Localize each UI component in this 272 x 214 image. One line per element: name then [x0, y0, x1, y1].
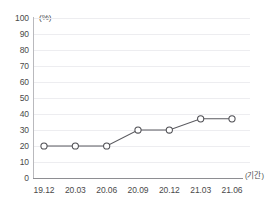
data-series-layer: [0, 0, 272, 214]
data-point-marker: [166, 127, 172, 133]
line-chart: (%) 1009080706050403020100 19.1220.0320.…: [0, 0, 272, 214]
data-point-marker: [198, 116, 204, 122]
series-markers: [41, 116, 235, 149]
data-point-marker: [72, 143, 78, 149]
data-point-marker: [229, 116, 235, 122]
data-point-marker: [41, 143, 47, 149]
data-point-marker: [104, 143, 110, 149]
data-point-marker: [135, 127, 141, 133]
